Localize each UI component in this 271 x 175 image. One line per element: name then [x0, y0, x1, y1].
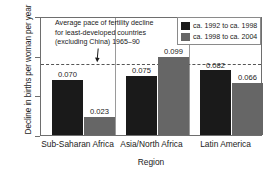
annotation-arrow-icon	[93, 48, 103, 64]
legend-item-1998-2004: ca. 1998 to ca. 2004	[181, 31, 257, 42]
bar-value-asia-north-africa-1992-1998: 0.075	[122, 66, 161, 75]
fertility-decline-bar-chart: Decline in births per woman per year 0.1…	[0, 0, 271, 175]
x-axis-title: Region	[40, 157, 262, 167]
bar-value-sub-saharan-africa-1992-1998: 0.070	[48, 70, 87, 79]
bar-value-sub-saharan-africa-1998-2004: 0.023	[80, 107, 119, 116]
annotation-line-3: (excluding China) 1965–90	[55, 38, 153, 48]
bar-value-latin-america-1992-1998: 0.082	[196, 61, 235, 70]
bar-latin-america-1992-1998	[200, 70, 231, 135]
annotation-line-1: Average pace of fertility decline	[55, 19, 153, 29]
category-label-sub-saharan-africa: Sub-Saharan Africa	[40, 139, 115, 149]
bar-asia-north-africa-1998-2004	[158, 57, 189, 136]
legend-swatch-gray	[181, 33, 190, 41]
bar-asia-north-africa-1992-1998	[126, 76, 157, 136]
legend-label-1992-1998: ca. 1992 to ca. 1998	[193, 22, 257, 30]
bar-sub-saharan-africa-1998-2004	[84, 117, 115, 135]
bar-value-asia-north-africa-1998-2004: 0.099	[154, 47, 193, 56]
bar-sub-saharan-africa-1992-1998	[52, 80, 83, 136]
reference-line-annotation: Average pace of fertility decline for le…	[55, 19, 153, 48]
y-tick-mark-0.00	[35, 136, 40, 137]
bar-value-latin-america-1998-2004: 0.066	[228, 73, 267, 82]
legend-label-1998-2004: ca. 1998 to ca. 2004	[193, 33, 257, 41]
y-axis-title: Decline in births per woman per year	[24, 0, 33, 145]
annotation-line-2: for least-developed countries	[55, 29, 153, 39]
category-label-latin-america: Latin America	[188, 139, 263, 149]
legend-item-1992-1998: ca. 1992 to ca. 1998	[181, 20, 257, 31]
legend-swatch-dark	[181, 22, 190, 30]
bar-latin-america-1998-2004	[232, 83, 263, 135]
legend: ca. 1992 to ca. 1998 ca. 1998 to ca. 200…	[177, 17, 261, 45]
category-label-asia-north-africa: Asia/North Africa	[114, 139, 189, 149]
